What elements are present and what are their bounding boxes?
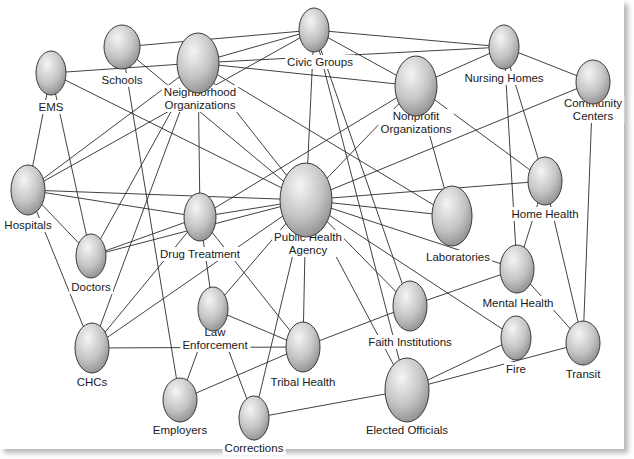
node-label-chcs: CHCs [77, 376, 108, 388]
node-label-civic: Civic Groups [287, 56, 353, 68]
node-doctors [76, 234, 106, 278]
node-label-elected: Elected Officials [366, 424, 448, 436]
node-label-nursing: Nursing Homes [464, 72, 543, 84]
node-community [576, 60, 610, 104]
node-employers [163, 378, 197, 422]
node-elected [385, 358, 429, 422]
node-transit [566, 321, 600, 365]
node-label-transit: Transit [566, 368, 602, 380]
node-label-employers: Employers [153, 424, 208, 436]
node-corrections [239, 396, 269, 440]
node-nonprofit [395, 56, 437, 116]
node-homehealth [528, 157, 562, 205]
node-label-mental: Mental Health [483, 297, 554, 309]
edge-corrections-elected [254, 390, 407, 418]
node-label-doctors: Doctors [71, 281, 111, 293]
node-label-schools: Schools [102, 74, 143, 86]
edge-transit-elected [407, 343, 583, 390]
node-label-fire: Fire [506, 363, 526, 375]
node-label-hospitals: Hospitals [4, 219, 52, 231]
node-fire [501, 316, 531, 360]
node-label-homehealth: Home Health [511, 208, 578, 220]
node-chcs [75, 323, 109, 373]
node-labs [432, 186, 472, 246]
node-drug [184, 193, 216, 241]
node-label-drug: Drug Treatment [160, 248, 241, 260]
node-hospitals [11, 165, 45, 215]
edge-tribal-employers [180, 347, 303, 400]
edge-civic-faith [314, 30, 410, 306]
node-pha [280, 163, 332, 237]
edge-hospitals-pha [28, 190, 306, 200]
edge-hospitals-drug [28, 190, 200, 217]
network-diagram: Civic GroupsSchoolsNeighborhoodOrganizat… [0, 0, 634, 459]
edge-pha-homehealth [306, 181, 545, 200]
node-mental [500, 245, 534, 293]
node-label-faith: Faith Institutions [368, 336, 452, 348]
node-ems [36, 51, 66, 95]
node-label-labs: Laboratories [426, 251, 490, 263]
edge-homehealth-transit [545, 181, 583, 343]
node-label-ems: EMS [39, 101, 64, 113]
node-label-corrections: Corrections [225, 442, 284, 454]
node-nursing [489, 25, 519, 69]
node-label-tribal: Tribal Health [271, 376, 336, 388]
edge-civic-nursing [314, 30, 504, 47]
node-law [198, 287, 228, 331]
node-civic [299, 8, 329, 52]
node-tribal [286, 322, 320, 372]
node-neighborhood [177, 33, 219, 93]
node-faith [393, 281, 427, 331]
node-schools [104, 25, 140, 69]
